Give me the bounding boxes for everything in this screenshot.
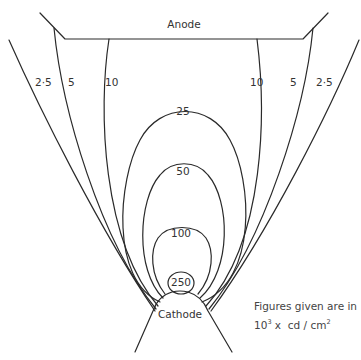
units-note-line2: 103 x cd / cm2 [254, 314, 357, 333]
contour-label-250: 250 [171, 276, 191, 288]
right-contour-labels: 10 5 2·5 [250, 76, 333, 88]
contour-2-5-right [211, 40, 359, 311]
contour-label-2-5-left: 2·5 [35, 76, 52, 88]
left-contours [9, 28, 158, 311]
contour-label-50: 50 [176, 165, 189, 177]
units-exponent-2: 2 [326, 318, 330, 326]
units-rest: x cd / cm [272, 319, 327, 331]
closed-contours [123, 112, 246, 303]
contour-label-25: 25 [176, 105, 189, 117]
units-note: Figures given are in 103 x cd / cm2 [254, 298, 357, 333]
contour-label-10-left: 10 [105, 76, 118, 88]
contour-label-5-right: 5 [290, 76, 297, 88]
contour-label-10-right: 10 [250, 76, 263, 88]
anode-label: Anode [167, 18, 200, 30]
contour-label-2-5-right: 2·5 [316, 76, 333, 88]
contour-label-100: 100 [171, 227, 191, 239]
left-contour-labels: 2·5 5 10 [35, 76, 118, 88]
contour-2-5-left [9, 40, 155, 311]
right-contours [206, 28, 359, 311]
cathode-label: Cathode [158, 308, 202, 320]
contour-label-5-left: 5 [68, 76, 75, 88]
contour-25 [123, 112, 246, 303]
units-note-line1: Figures given are in [254, 298, 357, 314]
anode: Anode [40, 13, 328, 39]
units-base: 10 [254, 319, 267, 331]
closed-contour-labels: 25 50 100 250 [171, 105, 191, 288]
